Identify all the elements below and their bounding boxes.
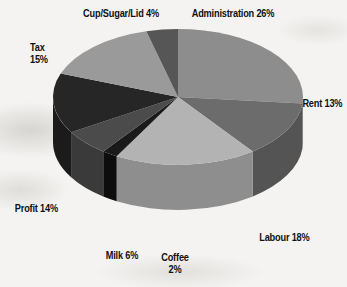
pie-chart: Cup/Sugar/Lid 4% Administration 26% Tax … — [0, 0, 347, 287]
slice-label-tax-value: 15% — [30, 54, 76, 66]
slice-label-coffee-value: 2% — [147, 264, 202, 276]
slice-label-labour: Labour 18% — [259, 232, 333, 244]
slice-label-profit: Profit 14% — [15, 203, 79, 215]
pie-top-surface — [53, 29, 303, 165]
slice-label-administration: Administration 26% — [173, 8, 293, 20]
slice-label-coffee-name: Coffee — [147, 252, 202, 264]
pie-side-coffee — [103, 151, 116, 201]
pie-slice-administration — [178, 29, 303, 104]
slice-label-milk: Milk 6% — [94, 250, 149, 262]
slice-label-rent: Rent 13% — [302, 98, 347, 110]
slice-label-tax-name: Tax — [30, 42, 76, 54]
slice-label-cup-sugar-lid: Cup/Sugar/Lid 4% — [61, 8, 181, 20]
